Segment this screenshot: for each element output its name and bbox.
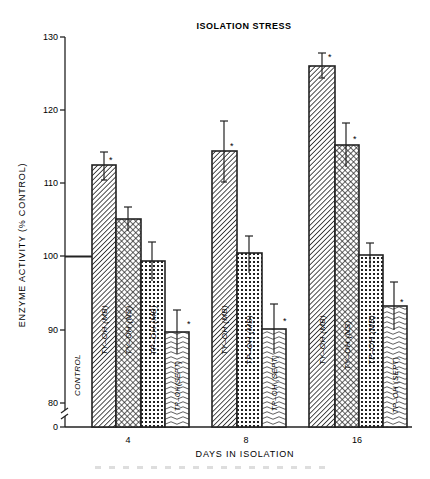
chart-title: ISOLATION STRESS [197,21,292,31]
group-day-8: * * TY–OH (MB) TP–OH (MB) TP–OH (SEPT) 8 [212,121,287,445]
x-tick-4: 4 [125,435,130,445]
bar-chart: ISOLATION STRESS ENZYME ACTIVITY (% CONT… [0,0,430,479]
bar-ty-oh-mb-day16 [309,66,335,427]
y-tick-90: 90 [48,325,58,335]
significance-marker: * [109,155,113,165]
significance-marker: * [400,297,404,307]
y-tick-100: 100 [43,251,58,261]
bar-ty-oh-mb-day4 [92,165,116,427]
control-label: CONTROL [73,354,82,396]
bar-label: TP–OH (SEPT) [391,357,400,414]
y-tick-80: 80 [48,398,58,408]
x-tick-16: 16 [352,435,362,445]
bar-label: TY–OH (NS) [343,320,352,369]
x-axis-label: DAYS IN ISOLATION [196,449,295,459]
bar-label: TY–OH (MB) [220,305,229,355]
significance-marker: * [230,141,234,151]
y-tick-130: 130 [43,32,58,42]
significance-marker: * [328,52,332,62]
y-axis [60,37,68,427]
bar-label: TY–OH (MB) [100,305,109,355]
bar-label: TP–OH(SEPT) [174,361,182,412]
x-tick-8: 8 [243,435,248,445]
group-day-16: * * * TY–OH (MB) TY–OH (NS) TP–OH (MB) T… [309,52,407,445]
bar-label: TP–OH (MB) [245,315,254,365]
bar-ty-oh-ns-day16 [335,145,359,427]
bar-label: TP–OH (MB) [367,315,376,365]
y-tick-0: 0 [53,422,58,432]
bar-label: TY–OH (MB) [318,315,327,365]
bar-label: TP–OH (SEPT) [270,355,279,412]
significance-marker: * [353,134,357,144]
y-tick-110: 110 [44,178,58,188]
y-tick-120: 120 [43,105,58,115]
group-day-4: * * TY–OH (MB) TY–OH (NS) TP–OH (MB) TP–… [92,152,191,445]
bar-ty-oh-mb-day8 [212,151,237,427]
bar-label: TP–OH (MB) [149,305,158,355]
y-axis-label: ENZYME ACTIVITY (% CONTROL) [17,163,27,327]
significance-marker: * [283,316,287,326]
bar-label: TY–OH (NS) [124,305,133,354]
cropped-caption-text [95,466,330,469]
significance-marker: * [187,319,191,329]
y-tick-labels: 130 120 110 100 90 80 0 [43,32,58,432]
